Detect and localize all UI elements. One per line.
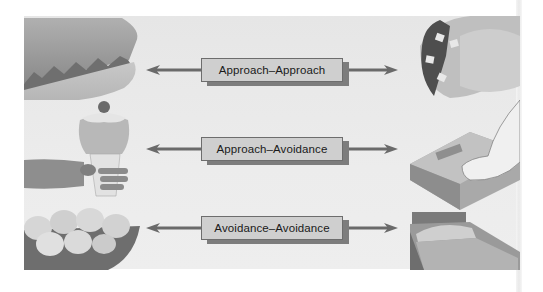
label-avoidance-avoidance: Avoidance–Avoidance <box>201 216 343 240</box>
conflict-row-avoidance-avoidance: Avoidance–Avoidance <box>0 215 543 241</box>
label-approach-avoidance: Approach–Avoidance <box>201 137 343 161</box>
conflict-row-approach-avoidance: Approach–Avoidance <box>0 136 543 162</box>
label-approach-approach: Approach–Approach <box>201 58 343 82</box>
conflict-row-approach-approach: Approach–Approach <box>0 57 543 83</box>
